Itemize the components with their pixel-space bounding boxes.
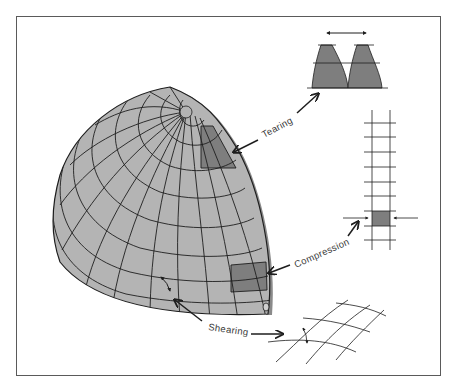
shearing-label: Shearing bbox=[208, 321, 250, 338]
compression-cell bbox=[231, 262, 267, 292]
tearing-label: Tearing bbox=[260, 114, 295, 139]
globe-segment bbox=[53, 87, 273, 320]
compression-arrow-to-detail bbox=[348, 222, 358, 236]
tearing-detail bbox=[307, 33, 388, 88]
compression-arrow-to-globe bbox=[269, 265, 290, 273]
distortion-diagram: Tearing Compression Shearing bbox=[0, 0, 457, 390]
shearing-detail bbox=[268, 300, 386, 364]
pole-marker bbox=[180, 106, 192, 118]
compressed-cell bbox=[372, 211, 390, 226]
tearing-arrow-to-detail bbox=[297, 94, 318, 113]
tearing-arrow-to-globe bbox=[234, 140, 258, 152]
compression-label: Compression bbox=[292, 236, 351, 270]
compression-detail bbox=[343, 110, 418, 250]
reference-point bbox=[263, 303, 269, 311]
